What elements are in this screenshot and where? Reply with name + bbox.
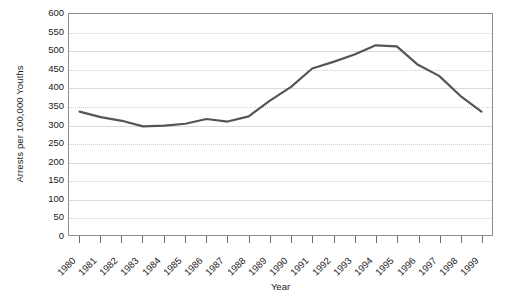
x-tick	[334, 236, 335, 243]
x-tick-label: 1996	[395, 255, 418, 278]
x-tick	[440, 236, 441, 243]
x-tick	[312, 236, 313, 243]
y-axis-tick-labels: 050100150200250300350400450500550600	[30, 8, 64, 236]
x-tick	[291, 236, 292, 243]
x-tick	[227, 236, 228, 243]
x-tick	[376, 236, 377, 243]
x-tick	[164, 236, 165, 243]
y-tick-label: 200	[30, 157, 64, 167]
x-tick	[79, 236, 80, 243]
x-tick-label: 1997	[416, 255, 439, 278]
x-tick	[121, 236, 122, 243]
x-tick-label: 1998	[437, 255, 460, 278]
x-tick-label: 1983	[118, 255, 141, 278]
x-tick-label: 1994	[352, 255, 375, 278]
y-tick-label: 350	[30, 101, 64, 111]
x-tick-label: 1990	[267, 255, 290, 278]
x-tick	[142, 236, 143, 243]
x-tick	[419, 236, 420, 243]
y-tick-label: 450	[30, 64, 64, 74]
y-tick-label: 500	[30, 45, 64, 55]
y-tick-label: 0	[30, 231, 64, 241]
y-tick-label: 600	[30, 8, 64, 18]
x-axis-ticks	[68, 236, 493, 243]
line-chart: Arrests per 100,000 Youths 0501001502002…	[0, 0, 522, 298]
y-tick-label: 150	[30, 175, 64, 185]
x-tick	[100, 236, 101, 243]
y-tick-label: 100	[30, 194, 64, 204]
y-tick-label: 550	[30, 27, 64, 37]
x-tick-label: 1992	[310, 255, 333, 278]
x-tick-label: 1981	[76, 255, 99, 278]
y-tick-label: 400	[30, 82, 64, 92]
x-tick-label: 1986	[182, 255, 205, 278]
x-tick	[206, 236, 207, 243]
x-tick-label: 1989	[246, 255, 269, 278]
x-tick-label: 1982	[97, 255, 120, 278]
x-tick	[355, 236, 356, 243]
x-tick	[185, 236, 186, 243]
x-tick	[249, 236, 250, 243]
x-tick	[482, 236, 483, 243]
y-tick-label: 50	[30, 212, 64, 222]
plot-area	[68, 13, 493, 236]
x-tick-label: 1980	[55, 255, 78, 278]
x-tick	[397, 236, 398, 243]
x-tick	[270, 236, 271, 243]
x-axis-title: Year	[68, 281, 493, 292]
x-tick-label: 1988	[225, 255, 248, 278]
x-tick-label: 1984	[140, 255, 163, 278]
y-tick-label: 250	[30, 138, 64, 148]
x-tick	[461, 236, 462, 243]
series-line-arrests	[69, 14, 492, 235]
x-tick-label: 1991	[288, 255, 311, 278]
y-tick-label: 300	[30, 120, 64, 130]
x-tick-label: 1999	[458, 255, 481, 278]
x-tick-label: 1995	[373, 255, 396, 278]
x-tick-label: 1985	[161, 255, 184, 278]
x-axis-tick-labels: 1980198119821983198419851986198719881989…	[68, 243, 493, 283]
x-tick-label: 1987	[203, 255, 226, 278]
x-tick-label: 1993	[331, 255, 354, 278]
series-polyline	[80, 45, 482, 126]
